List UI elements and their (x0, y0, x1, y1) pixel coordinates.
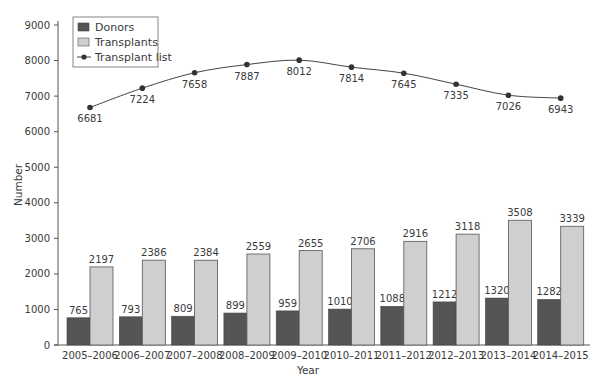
transplants-swatch-icon (78, 38, 89, 46)
bar-group: 10102706 (327, 236, 375, 345)
donors-value-label: 899 (226, 300, 245, 311)
donors-value-label: 1282 (536, 286, 561, 297)
x-tick-label: 2013–2014 (480, 350, 536, 361)
donors-bar (67, 318, 90, 345)
x-tick-label: 2005–2006 (62, 350, 118, 361)
y-tick-label: 2000 (25, 268, 50, 279)
donors-bar (485, 298, 508, 345)
donors-bar (433, 302, 456, 345)
donors-value-label: 1010 (327, 296, 352, 307)
donors-bar (381, 306, 404, 345)
transplants-value-label: 2655 (298, 238, 323, 249)
x-axis: 2005–20062006–20072007–20082008–20092009… (54, 345, 590, 361)
transplant-list-point (453, 81, 459, 87)
transplant-list-point (401, 70, 407, 76)
donors-value-label: 809 (174, 303, 193, 314)
chart-container: 0100020003000400050006000700080009000 20… (0, 0, 605, 390)
legend-label-donors: Donors (95, 21, 134, 34)
transplant-list-value-label: 8012 (286, 66, 311, 77)
transplant-list-line (90, 60, 561, 107)
transplants-value-label: 3508 (507, 207, 532, 218)
x-tick-label: 2010–2011 (324, 350, 380, 361)
transplant-list-point (140, 85, 146, 91)
y-tick-label: 5000 (25, 162, 50, 173)
transplants-value-label: 3118 (455, 221, 480, 232)
donors-value-label: 1320 (484, 285, 509, 296)
transplants-value-label: 2384 (193, 247, 218, 258)
combo-bar-line-chart: 0100020003000400050006000700080009000 20… (0, 0, 605, 390)
transplants-bar (508, 220, 531, 345)
transplant-list-marker-icon (81, 54, 86, 59)
bar-group: 13203508 (484, 207, 532, 345)
donors-value-label: 1088 (380, 293, 405, 304)
transplants-value-label: 2197 (89, 254, 114, 265)
transplant-list-value-label: 6681 (77, 113, 102, 124)
x-tick-label: 2012–2013 (428, 350, 484, 361)
transplants-value-label: 2559 (246, 241, 271, 252)
transplants-bar (90, 267, 113, 345)
transplant-list-point (296, 57, 302, 63)
y-tick-label: 1000 (25, 304, 50, 315)
donors-bar (329, 309, 352, 345)
donors-bar (538, 299, 561, 345)
legend-label-transplant-list: Transplant list (94, 51, 172, 64)
bar-group: 9592655 (276, 238, 323, 345)
transplants-bar (195, 260, 218, 345)
transplant-list-point (192, 70, 198, 76)
bar-group: 8992559 (224, 241, 271, 345)
transplants-bar (456, 234, 479, 345)
y-tick-label: 3000 (25, 233, 50, 244)
legend: Donors Transplants Transplant list (73, 17, 172, 67)
donors-value-label: 765 (69, 305, 88, 316)
bar-group: 7932386 (119, 247, 166, 345)
transplants-value-label: 2706 (350, 236, 375, 247)
transplant-list-value-label: 7645 (391, 79, 416, 90)
transplants-value-label: 3339 (559, 213, 584, 224)
donors-bar (224, 313, 247, 345)
transplants-bar (404, 241, 427, 345)
transplants-bar (142, 260, 165, 345)
donors-bar (276, 311, 299, 345)
bar-group: 8092384 (172, 247, 219, 345)
transplant-list-value-label: 7658 (182, 79, 207, 90)
transplant-list-value-label: 7887 (234, 71, 259, 82)
x-tick-label: 2014–2015 (533, 350, 589, 361)
y-tick-label: 6000 (25, 126, 50, 137)
donors-bar (119, 317, 142, 345)
y-tick-label: 9000 (25, 20, 50, 31)
bar-group: 10882916 (380, 228, 428, 345)
y-tick-label: 7000 (25, 91, 50, 102)
x-tick-label: 2009–2010 (271, 350, 327, 361)
transplant-list-value-label: 7814 (339, 73, 364, 84)
x-axis-title: Year (296, 364, 320, 376)
transplant-list-value-label: 7026 (496, 101, 521, 112)
legend-label-transplants: Transplants (94, 36, 158, 49)
transplants-bar (352, 249, 375, 345)
bar-series: 7652197793238680923848992559959265510102… (67, 207, 585, 345)
transplant-list-value-label: 7335 (443, 90, 468, 101)
y-axis-title: Number (12, 163, 24, 206)
transplant-list-point (87, 105, 93, 111)
bar-group: 12823339 (536, 213, 584, 345)
x-tick-label: 2007–2008 (167, 350, 223, 361)
donors-value-label: 1212 (432, 289, 457, 300)
y-tick-label: 8000 (25, 55, 50, 66)
y-tick-label: 4000 (25, 197, 50, 208)
donors-value-label: 959 (278, 298, 297, 309)
transplant-list-point (506, 92, 512, 98)
transplant-list-point (558, 95, 564, 101)
transplant-list-point (349, 64, 355, 70)
transplants-value-label: 2916 (403, 228, 428, 239)
transplants-bar (247, 254, 270, 345)
donors-swatch-icon (78, 23, 89, 31)
x-tick-label: 2011–2012 (376, 350, 432, 361)
transplant-list-value-label: 7224 (130, 94, 155, 105)
bar-group: 7652197 (67, 254, 114, 345)
donors-bar (172, 316, 195, 345)
x-tick-label: 2008–2009 (219, 350, 275, 361)
transplants-bar (561, 226, 584, 345)
transplant-list-point (244, 62, 250, 68)
transplants-value-label: 2386 (141, 247, 166, 258)
donors-value-label: 793 (121, 304, 140, 315)
x-tick-label: 2006–2007 (114, 350, 170, 361)
